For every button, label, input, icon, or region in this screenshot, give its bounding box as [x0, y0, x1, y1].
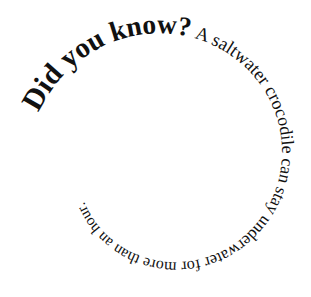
- headline-did-you-know: Did you know?: [15, 8, 194, 115]
- spiral-text: Did you know? A saltwater crocodile can …: [15, 8, 299, 276]
- spiral-textpath: Did you know? A saltwater crocodile can …: [15, 8, 299, 276]
- spiral-text-graphic: Did you know? A saltwater crocodile can …: [0, 0, 311, 297]
- fact-saltwater-crocodile: A saltwater crocodile can stay underwate…: [72, 20, 298, 276]
